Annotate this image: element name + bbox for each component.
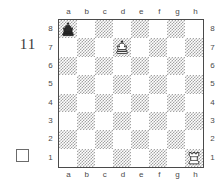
square-g4[interactable] [167,94,185,112]
square-e8[interactable] [131,20,149,38]
file-label-b: b [78,170,96,180]
square-a3[interactable] [59,112,77,130]
square-g8[interactable] [167,20,185,38]
square-e6[interactable] [131,57,149,75]
file-label-e: e [132,170,150,180]
square-h5[interactable] [185,75,203,93]
rank-label-2: 2 [46,130,55,149]
chess-diagram: aabbccddeeffgghh8877665544332211 [58,19,204,168]
square-e7[interactable] [131,38,149,56]
square-b5[interactable] [77,75,95,93]
square-f3[interactable] [149,112,167,130]
square-d8[interactable] [113,20,131,38]
file-label-c: c [96,170,114,180]
file-label-g: g [168,7,186,17]
square-h8[interactable] [185,20,203,38]
square-c3[interactable] [95,112,113,130]
square-d7[interactable] [113,38,131,56]
square-c4[interactable] [95,94,113,112]
square-g5[interactable] [167,75,185,93]
square-f5[interactable] [149,75,167,93]
square-d3[interactable] [113,112,131,130]
square-d1[interactable] [113,149,131,167]
square-e4[interactable] [131,94,149,112]
rank-label-3: 3 [46,112,55,131]
rank-label-6: 6 [208,57,217,76]
square-a6[interactable] [59,57,77,75]
square-d5[interactable] [113,75,131,93]
square-g6[interactable] [167,57,185,75]
square-b4[interactable] [77,94,95,112]
square-f6[interactable] [149,57,167,75]
square-h3[interactable] [185,112,203,130]
file-label-d: d [114,7,132,17]
rank-label-7: 7 [46,39,55,58]
white-king-icon[interactable] [113,38,131,56]
square-h7[interactable] [185,38,203,56]
rank-label-4: 4 [46,94,55,113]
square-f4[interactable] [149,94,167,112]
rank-label-1: 1 [208,149,217,168]
square-e2[interactable] [131,130,149,148]
square-b8[interactable] [77,20,95,38]
white-rook-icon[interactable] [185,149,203,167]
square-f7[interactable] [149,38,167,56]
file-label-b: b [78,7,96,17]
square-c2[interactable] [95,130,113,148]
square-a7[interactable] [59,38,77,56]
square-c7[interactable] [95,38,113,56]
square-b2[interactable] [77,130,95,148]
file-label-h: h [186,170,204,180]
square-e1[interactable] [131,149,149,167]
diagram-number: 11 [10,36,46,53]
file-label-a: a [59,170,77,180]
square-f2[interactable] [149,130,167,148]
square-f1[interactable] [149,149,167,167]
file-label-f: f [150,7,168,17]
square-a4[interactable] [59,94,77,112]
square-h2[interactable] [185,130,203,148]
square-g1[interactable] [167,149,185,167]
square-f8[interactable] [149,20,167,38]
black-king-icon[interactable] [59,20,77,38]
square-b6[interactable] [77,57,95,75]
square-d4[interactable] [113,94,131,112]
square-c1[interactable] [95,149,113,167]
chess-board[interactable] [58,19,204,168]
file-label-h: h [186,7,204,17]
file-label-e: e [132,7,150,17]
rank-label-5: 5 [208,75,217,94]
rank-label-1: 1 [46,149,55,168]
square-h4[interactable] [185,94,203,112]
rank-label-7: 7 [208,39,217,58]
square-b7[interactable] [77,38,95,56]
square-a8[interactable] [59,20,77,38]
square-b3[interactable] [77,112,95,130]
square-b1[interactable] [77,149,95,167]
rank-label-8: 8 [46,20,55,39]
square-g2[interactable] [167,130,185,148]
square-h1[interactable] [185,149,203,167]
file-label-g: g [168,170,186,180]
square-c8[interactable] [95,20,113,38]
square-c5[interactable] [95,75,113,93]
square-g3[interactable] [167,112,185,130]
square-d6[interactable] [113,57,131,75]
rank-label-2: 2 [208,130,217,149]
file-label-a: a [59,7,77,17]
rank-label-4: 4 [208,94,217,113]
square-a2[interactable] [59,130,77,148]
square-a1[interactable] [59,149,77,167]
rank-label-8: 8 [208,20,217,39]
square-a5[interactable] [59,75,77,93]
rank-label-6: 6 [46,57,55,76]
square-c6[interactable] [95,57,113,75]
file-label-d: d [114,170,132,180]
square-g7[interactable] [167,38,185,56]
square-d2[interactable] [113,130,131,148]
file-label-f: f [150,170,168,180]
file-label-c: c [96,7,114,17]
square-e5[interactable] [131,75,149,93]
square-e3[interactable] [131,112,149,130]
square-h6[interactable] [185,57,203,75]
